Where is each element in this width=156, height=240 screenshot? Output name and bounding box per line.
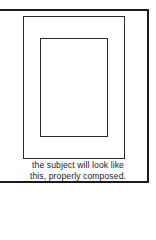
inner-rectangle <box>40 38 108 137</box>
caption-line-1: the subject will look like <box>14 160 142 171</box>
caption: the subject will look like this, properl… <box>14 160 142 182</box>
caption-line-2: this, properly composed. <box>14 171 142 182</box>
